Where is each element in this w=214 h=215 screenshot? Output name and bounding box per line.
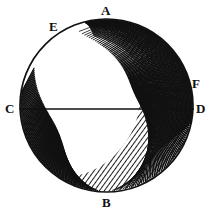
point-label-d: D xyxy=(196,102,205,115)
circle-diagram-svg xyxy=(0,0,214,215)
figure-canvas: A B C D E F xyxy=(0,0,214,215)
point-label-f: F xyxy=(192,77,200,90)
point-label-b: B xyxy=(102,196,111,209)
point-label-e: E xyxy=(49,20,58,33)
point-label-a: A xyxy=(101,4,110,17)
point-label-c: C xyxy=(5,102,14,115)
